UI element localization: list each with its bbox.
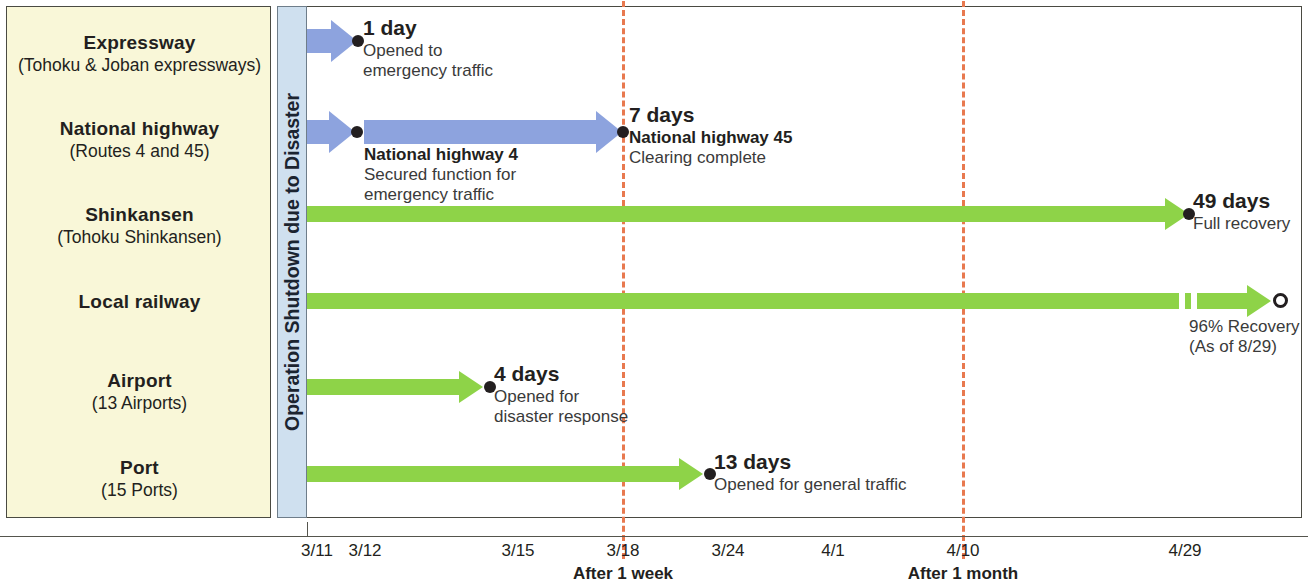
- row-label-local-railway: Local railway: [7, 290, 272, 314]
- axis-tick-label-3: 3/18: [606, 541, 639, 561]
- bar-shaft: [307, 29, 331, 53]
- annotation-detail-1: Opened for: [494, 387, 628, 407]
- operation-shutdown-strip: Operation Shutdown due to Disaster: [277, 6, 307, 518]
- row-label-line1: National highway: [7, 117, 272, 141]
- row-label-line1: Expressway: [7, 31, 272, 55]
- annotation-local-railway: 96% Recovery (As of 8/29): [1189, 317, 1300, 357]
- annotation-national-highway-4: National highway 4 Secured function for …: [364, 145, 518, 205]
- annotation-detail-2: disaster response: [494, 407, 628, 427]
- annotation-value: 1 day: [363, 16, 493, 41]
- bar-shaft: [307, 206, 1165, 222]
- annotation-value: 4 days: [494, 362, 628, 387]
- annotation-detail-2: emergency traffic: [364, 185, 518, 205]
- annotation-shinkansen: 49 days Full recovery: [1193, 189, 1290, 234]
- annotation-detail-1: Opened to: [363, 41, 493, 61]
- row-label-port: Port (15 Ports): [7, 456, 272, 502]
- annotation-expressway: 1 day Opened to emergency traffic: [363, 16, 493, 81]
- annotation-detail-1: National highway 45: [629, 128, 792, 148]
- row-label-line2: (13 Airports): [7, 393, 272, 415]
- axis-note-after-1-week: After 1 week: [573, 564, 673, 584]
- axis-tick-label-6: 4/10: [946, 541, 979, 561]
- annotation-detail-1: Full recovery: [1193, 214, 1290, 234]
- axis-tick: [307, 522, 308, 536]
- annotation-detail-2: Clearing complete: [629, 148, 792, 168]
- axis-tick-label-0: 3/11: [301, 541, 333, 561]
- bar-arrowhead: [1247, 285, 1271, 317]
- row-label-shinkansen: Shinkansen (Tohoku Shinkansen): [7, 203, 272, 249]
- row-label-line2: (15 Ports): [7, 480, 272, 502]
- axis-tick-label-2: 3/15: [501, 541, 534, 561]
- annotation-detail-1: 96% Recovery: [1189, 317, 1300, 337]
- annotation-national-highway-45: 7 days National highway 45 Clearing comp…: [629, 103, 792, 168]
- bar-shaft: [307, 379, 459, 395]
- milestone-dot-national-highway-45: [617, 126, 629, 138]
- x-axis-line: [0, 536, 1308, 537]
- row-label-expressway: Expressway (Tohoku & Joban expressways): [7, 31, 272, 77]
- row-label-national-highway: National highway (Routes 4 and 45): [7, 117, 272, 163]
- reference-line-after-1-month: [962, 1, 965, 559]
- annotation-detail-2: (As of 8/29): [1189, 337, 1300, 357]
- annotation-value: 13 days: [714, 450, 906, 475]
- annotation-port: 13 days Opened for general traffic: [714, 450, 906, 495]
- bar-shaft: [364, 120, 596, 144]
- milestone-open-marker-local-railway: [1273, 293, 1288, 308]
- recovery-timeline-chart: Expressway (Tohoku & Joban expressways) …: [0, 0, 1308, 586]
- row-label-line2: (Routes 4 and 45): [7, 141, 272, 163]
- row-label-line2: (Tohoku Shinkansen): [7, 227, 272, 249]
- annotation-value: 49 days: [1193, 189, 1290, 214]
- milestone-dot-national-highway-4: [351, 126, 363, 138]
- annotation-value: National highway 4: [364, 145, 518, 165]
- bar-shaft: [307, 293, 1247, 309]
- category-label-panel: Expressway (Tohoku & Joban expressways) …: [6, 6, 271, 518]
- bar-arrowhead: [679, 458, 703, 490]
- row-label-line2: (Tohoku & Joban expressways): [7, 55, 272, 77]
- operation-shutdown-label: Operation Shutdown due to Disaster: [281, 93, 304, 431]
- bar-shaft: [307, 120, 329, 144]
- axis-note-after-1-month: After 1 month: [908, 564, 1019, 584]
- row-label-line1: Local railway: [7, 290, 272, 314]
- axis-tick-label-4: 3/24: [711, 541, 744, 561]
- axis-tick-label-5: 4/1: [821, 541, 845, 561]
- bar-shaft: [307, 466, 679, 482]
- row-label-airport: Airport (13 Airports): [7, 369, 272, 415]
- bar-gap: [1191, 291, 1197, 311]
- annotation-detail-1: Opened for general traffic: [714, 475, 906, 495]
- axis-tick-label-7: 4/29: [1168, 541, 1201, 561]
- annotation-airport: 4 days Opened for disaster response: [494, 362, 628, 427]
- row-label-line1: Airport: [7, 369, 272, 393]
- annotation-detail-1: Secured function for: [364, 165, 518, 185]
- bar-arrowhead: [459, 371, 483, 403]
- row-label-line1: Port: [7, 456, 272, 480]
- row-label-line1: Shinkansen: [7, 203, 272, 227]
- bar-gap: [1179, 291, 1185, 311]
- annotation-detail-2: emergency traffic: [363, 61, 493, 81]
- annotation-value: 7 days: [629, 103, 792, 128]
- timeline-plot-area: 1 day Opened to emergency traffic Nation…: [307, 6, 1302, 518]
- axis-tick-label-1: 3/12: [348, 541, 381, 561]
